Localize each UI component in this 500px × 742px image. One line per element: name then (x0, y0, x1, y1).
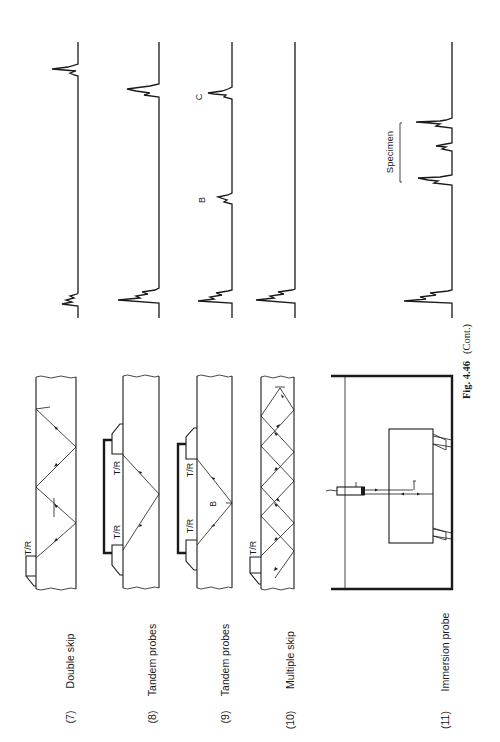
trace-marker-c: C (194, 93, 204, 100)
probe-label-tr: T/R (23, 540, 33, 555)
panel-8-number: (8) (146, 711, 158, 724)
probe-label-tr-1: T/R (185, 462, 195, 477)
figure-caption-label: Fig. 4.46 (461, 361, 472, 399)
trace-8-tandem (118, 42, 159, 318)
trace-9-tandem: B C (194, 42, 232, 318)
figure-caption-suffix: (Cont.) (461, 323, 473, 354)
panel-10-title: Multiple skip (284, 631, 296, 689)
flaw-marker-b: B (208, 501, 218, 507)
panel-7-number: (7) (64, 711, 76, 724)
figure-page: B C Specimen T/R (0, 0, 500, 742)
panel-8-title: Tandem probes (146, 624, 158, 696)
probe-label-tr-2: T/R (112, 524, 122, 539)
panel-7-title: Double skip (64, 633, 76, 688)
diagram-9-tandem: T/R T/R B (178, 375, 232, 589)
trace-marker-specimen: Specimen (384, 131, 395, 173)
diagram-11-immersion (326, 376, 452, 589)
panel-9-number: (9) (219, 711, 231, 724)
probe-label-tr-1: T/R (112, 460, 122, 475)
panel-9-title: Tandem probes (219, 624, 231, 696)
diagram-7-double-skip: T/R (23, 376, 76, 590)
trace-10-multiple-skip (256, 42, 295, 318)
panel-captions: (7) Double skip (8) Tandem probes (9) Ta… (64, 612, 451, 729)
trace-11-immersion: Specimen (384, 42, 452, 318)
figure-caption: Fig. 4.46 (Cont.) (461, 323, 473, 399)
trace-marker-b: B (197, 197, 207, 203)
probe-label-tr: T/R (248, 540, 258, 555)
panel-11-number: (11) (439, 711, 451, 729)
trace-7-double-skip (52, 42, 78, 318)
diagram-10-multiple-skip: T/R (248, 376, 294, 590)
panel-11-title: Immersion probe (439, 612, 451, 691)
specimen-bracket (400, 123, 402, 182)
diagram-8-tandem: T/R T/R (104, 375, 159, 589)
probe-label-tr-2: T/R (185, 518, 195, 533)
panel-10-number: (10) (284, 711, 296, 730)
